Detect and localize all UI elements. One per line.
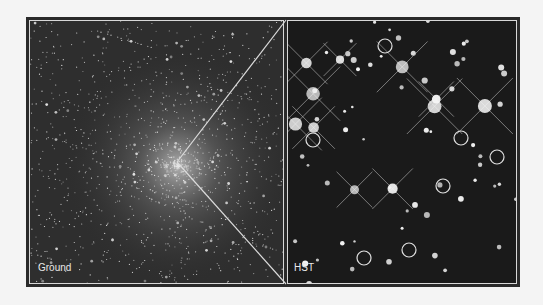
ground-starfield <box>30 21 284 284</box>
ground-label: Ground <box>38 262 71 273</box>
hst-image-panel: HST <box>287 20 517 284</box>
hst-starfield <box>288 21 517 284</box>
hst-label: HST <box>294 262 314 273</box>
ground-image-panel: Ground <box>29 20 284 284</box>
figure-frame: Ground HST <box>26 17 520 287</box>
